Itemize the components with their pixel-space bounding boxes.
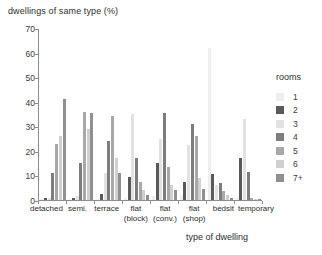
x-axis-label: flat(shop) bbox=[180, 204, 209, 224]
x-axis-label: temporary bbox=[238, 204, 274, 224]
y-axis-tick-label: 10 bbox=[11, 172, 35, 181]
bar bbox=[90, 113, 93, 200]
bar bbox=[208, 48, 211, 200]
legend-swatch bbox=[276, 160, 284, 168]
plot-area: 010203040506070 bbox=[38, 29, 262, 201]
bar bbox=[76, 196, 79, 200]
bar bbox=[191, 124, 194, 200]
legend-item[interactable]: 7+ bbox=[276, 171, 322, 185]
legend-label: 4 bbox=[293, 133, 298, 142]
legend: rooms 1234567+ bbox=[276, 72, 322, 185]
bar bbox=[115, 158, 118, 200]
y-axis-tick-label: 30 bbox=[11, 123, 35, 132]
legend-item[interactable]: 6 bbox=[276, 158, 322, 172]
bar bbox=[170, 185, 173, 200]
bar bbox=[59, 136, 62, 200]
x-axis-label-sub: (conv.) bbox=[150, 214, 179, 224]
bar bbox=[79, 163, 82, 200]
y-axis-title: dwellings of same type (%) bbox=[8, 6, 118, 16]
x-axis-label: terrace bbox=[92, 204, 121, 224]
x-axis-label-main: flat bbox=[160, 204, 171, 213]
legend-item[interactable]: 4 bbox=[276, 131, 322, 145]
legend-label: 6 bbox=[293, 160, 298, 169]
bar bbox=[96, 199, 99, 200]
bar bbox=[222, 191, 225, 200]
bar bbox=[83, 112, 86, 200]
chart-root: dwellings of same type (%) 0102030405060… bbox=[0, 0, 322, 255]
x-axis-label-main: temporary bbox=[238, 204, 274, 213]
y-axis-tick-label: 70 bbox=[11, 25, 35, 34]
bar bbox=[243, 119, 246, 200]
bar bbox=[156, 163, 159, 200]
legend-label: 7+ bbox=[293, 174, 303, 183]
bar bbox=[219, 183, 222, 200]
bar bbox=[44, 198, 47, 200]
bar bbox=[100, 194, 103, 200]
legend-items: 1234567+ bbox=[276, 90, 322, 185]
bar bbox=[159, 139, 162, 200]
bar bbox=[55, 144, 58, 201]
bar bbox=[146, 195, 149, 200]
legend-swatch bbox=[276, 133, 284, 141]
x-axis-label: flat(conv.) bbox=[150, 204, 179, 224]
legend-label: 3 bbox=[293, 120, 298, 129]
legend-label: 1 bbox=[293, 93, 298, 102]
y-axis-tick-label: 60 bbox=[11, 49, 35, 58]
x-axis-label-sub: (block) bbox=[121, 214, 150, 224]
bar bbox=[239, 158, 242, 200]
bar bbox=[87, 129, 90, 200]
x-axis-label: bedsit bbox=[209, 204, 238, 224]
x-axis-label-main: bedsit bbox=[213, 204, 234, 213]
x-axis-title: type of dwelling bbox=[186, 232, 248, 242]
bar bbox=[152, 196, 155, 200]
bar bbox=[258, 199, 261, 200]
bar bbox=[40, 199, 43, 200]
legend-title: rooms bbox=[276, 72, 322, 82]
bar bbox=[118, 173, 121, 200]
legend-label: 5 bbox=[293, 147, 298, 156]
bar bbox=[124, 198, 127, 200]
bar bbox=[131, 114, 134, 200]
bar bbox=[51, 173, 54, 200]
bar-group bbox=[151, 29, 179, 200]
bar bbox=[250, 198, 253, 200]
legend-swatch bbox=[276, 93, 284, 101]
y-axis-tick-label: 20 bbox=[11, 148, 35, 157]
x-axis-label-main: flat bbox=[131, 204, 142, 213]
legend-item[interactable]: 2 bbox=[276, 104, 322, 118]
bar bbox=[72, 198, 75, 200]
bar bbox=[107, 141, 110, 200]
x-axis-label-main: semi. bbox=[68, 204, 87, 213]
bar bbox=[195, 136, 198, 200]
bar bbox=[174, 190, 177, 200]
x-axis-label-main: detached bbox=[30, 204, 63, 213]
bar bbox=[104, 173, 107, 200]
x-axis-label: detached bbox=[30, 204, 63, 224]
bar-group bbox=[39, 29, 67, 200]
legend-item[interactable]: 3 bbox=[276, 117, 322, 131]
bar bbox=[142, 190, 145, 200]
bar-group bbox=[95, 29, 123, 200]
bar bbox=[236, 198, 239, 200]
bar-groups bbox=[39, 29, 262, 200]
x-axis-label: flat(block) bbox=[121, 204, 150, 224]
bar-group bbox=[67, 29, 95, 200]
bar bbox=[247, 172, 250, 200]
y-axis-tick-label: 50 bbox=[11, 74, 35, 83]
legend-swatch bbox=[276, 106, 284, 114]
bar bbox=[135, 158, 138, 200]
bar bbox=[68, 199, 71, 200]
bar bbox=[198, 178, 201, 200]
legend-item[interactable]: 1 bbox=[276, 90, 322, 104]
bar bbox=[183, 182, 186, 200]
legend-item[interactable]: 5 bbox=[276, 144, 322, 158]
bar-group bbox=[123, 29, 151, 200]
bar bbox=[63, 99, 66, 200]
x-axis-labels: detachedsemi.terraceflat(block)flat(conv… bbox=[30, 204, 274, 224]
bar bbox=[202, 189, 205, 200]
x-axis-label: semi. bbox=[63, 204, 92, 224]
bar bbox=[139, 182, 142, 200]
bar bbox=[211, 174, 214, 200]
bar bbox=[167, 167, 170, 200]
bar bbox=[226, 195, 229, 200]
